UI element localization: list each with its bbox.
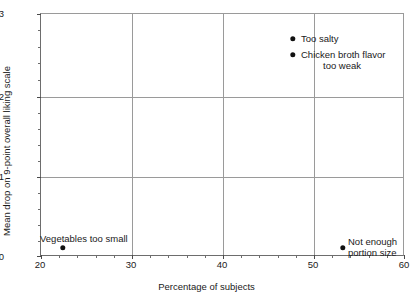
y-minor-tick bbox=[38, 47, 41, 48]
y-minor-tick bbox=[38, 145, 41, 146]
gridline-y-minus2 bbox=[41, 97, 403, 98]
data-point-chicken-broth-flavor-too-weak[interactable] bbox=[290, 52, 295, 57]
y-major-tick-minus1 bbox=[37, 177, 41, 178]
x-tick-label-40: 40 bbox=[217, 260, 228, 270]
y-tick-label-minus1: -1 bbox=[0, 172, 4, 182]
x-minor-tick bbox=[332, 255, 333, 258]
plot-area: Too salty Chicken broth flavor too weak … bbox=[40, 13, 404, 256]
data-label-too-salty: Too salty bbox=[301, 33, 339, 44]
y-minor-tick bbox=[38, 63, 41, 64]
data-label-chicken-broth-line1: Chicken broth flavor bbox=[301, 49, 385, 60]
y-tick-label-minus2: -2 bbox=[0, 92, 4, 102]
x-tick-label-20: 20 bbox=[35, 260, 46, 270]
data-label-not-enough-line2: portion size bbox=[348, 247, 397, 258]
x-axis-title: Percentage of subjects bbox=[0, 282, 413, 292]
x-major-tick-30 bbox=[132, 255, 133, 259]
y-minor-tick bbox=[38, 30, 41, 31]
y-minor-tick bbox=[38, 80, 41, 81]
x-minor-tick bbox=[296, 255, 297, 258]
x-tick-label-50: 50 bbox=[308, 260, 319, 270]
x-minor-tick bbox=[96, 255, 97, 258]
data-point-too-salty[interactable] bbox=[290, 36, 295, 41]
data-point-not-enough-portion-size[interactable] bbox=[340, 245, 345, 250]
y-minor-tick bbox=[38, 161, 41, 162]
x-minor-tick bbox=[59, 255, 60, 258]
gridline-x-30 bbox=[132, 14, 133, 255]
data-label-chicken-broth-line2: too weak bbox=[323, 60, 361, 71]
x-minor-tick bbox=[278, 255, 279, 258]
x-minor-tick bbox=[77, 255, 78, 258]
scatter-chart: Mean drop on 9-point overall liking scal… bbox=[0, 0, 413, 302]
x-minor-tick bbox=[241, 255, 242, 258]
x-major-tick-60 bbox=[404, 255, 405, 259]
x-minor-tick bbox=[205, 255, 206, 258]
y-major-tick-minus2 bbox=[37, 97, 41, 98]
x-minor-tick bbox=[168, 255, 169, 258]
x-major-tick-50 bbox=[314, 255, 315, 259]
x-major-tick-20 bbox=[41, 255, 42, 259]
y-minor-tick bbox=[38, 113, 41, 114]
x-tick-label-60: 60 bbox=[399, 260, 410, 270]
x-minor-tick bbox=[114, 255, 115, 258]
gridline-x-40 bbox=[223, 14, 224, 255]
x-minor-tick bbox=[150, 255, 151, 258]
gridline-y-minus1 bbox=[41, 177, 403, 178]
y-major-tick-minus3 bbox=[37, 14, 41, 15]
data-point-vegetables-too-small[interactable] bbox=[60, 245, 65, 250]
x-major-tick-40 bbox=[223, 255, 224, 259]
y-minor-tick bbox=[38, 193, 41, 194]
data-label-vegetables-too-small: Vegetables too small bbox=[40, 233, 128, 244]
y-minor-tick bbox=[38, 225, 41, 226]
data-label-not-enough-line1: Not enough bbox=[348, 236, 397, 247]
y-minor-tick bbox=[38, 209, 41, 210]
y-tick-label-minus3: -3 bbox=[0, 9, 4, 19]
x-tick-label-30: 30 bbox=[126, 260, 137, 270]
y-tick-label-zero: 0 bbox=[0, 252, 4, 262]
y-minor-tick bbox=[38, 129, 41, 130]
x-minor-tick bbox=[187, 255, 188, 258]
x-minor-tick bbox=[259, 255, 260, 258]
